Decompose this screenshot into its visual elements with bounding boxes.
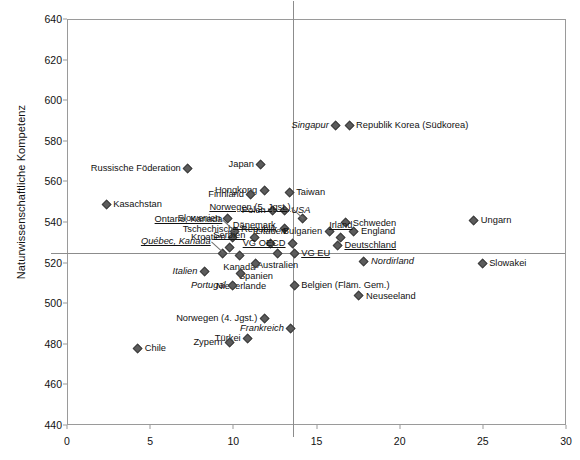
y-tick-mark xyxy=(63,140,67,141)
diamond-marker-icon xyxy=(331,120,341,130)
y-tick-mark xyxy=(63,262,67,263)
x-tick-label: 10 xyxy=(227,430,239,447)
data-point-label: Slowakei xyxy=(489,258,526,268)
plot-area: Russische FöderationJapanSingapurRepubli… xyxy=(67,19,566,425)
data-point-label: Ontario, Kanada xyxy=(155,214,223,224)
data-point-label: Republik Korea (Südkorea) xyxy=(356,120,468,130)
y-tick-mark xyxy=(63,303,67,304)
data-point-label: Nordirland xyxy=(371,256,414,266)
data-point-label: Irland xyxy=(329,220,352,230)
data-point-label: Serbien xyxy=(213,230,245,240)
y-tick-label: 600 xyxy=(0,94,68,106)
y-tick-mark xyxy=(63,100,67,101)
y-tick-label: 460 xyxy=(0,378,68,390)
scatter-chart: Naturwissenschaftliche Kompetenz Russisc… xyxy=(0,0,580,460)
data-point-label: Italien xyxy=(173,266,198,276)
y-tick-mark xyxy=(63,343,67,344)
diamond-marker-icon xyxy=(256,159,266,169)
x-tick-label: 30 xyxy=(560,430,572,447)
data-point-label: Norwegen (4. Jgst.) xyxy=(176,313,257,323)
diamond-marker-icon xyxy=(354,291,364,301)
x-tick-mark xyxy=(316,425,317,429)
diamond-marker-icon xyxy=(344,120,354,130)
x-tick-label: 25 xyxy=(477,430,489,447)
diamond-marker-icon xyxy=(183,163,193,173)
x-tick-label: 5 xyxy=(147,430,153,447)
diamond-marker-icon xyxy=(259,185,269,195)
data-point-label: Québec, Kanada xyxy=(141,236,211,246)
y-tick-label: 520 xyxy=(0,257,68,269)
data-point-label: Singapur xyxy=(292,120,329,130)
y-tick-mark xyxy=(63,59,67,60)
x-tick-mark xyxy=(399,425,400,429)
x-tick-mark xyxy=(150,425,151,429)
x-tick-mark xyxy=(233,425,234,429)
diamond-marker-icon xyxy=(101,200,111,210)
diamond-marker-icon xyxy=(272,248,282,258)
y-tick-label: 640 xyxy=(0,13,68,25)
data-point-label: Litauen xyxy=(256,226,287,236)
y-tick-label: 560 xyxy=(0,175,68,187)
diamond-marker-icon xyxy=(133,344,143,354)
y-tick-mark xyxy=(63,181,67,182)
diamond-marker-icon xyxy=(259,313,269,323)
data-point-label: Japan xyxy=(229,159,254,169)
diamond-marker-icon xyxy=(469,216,479,226)
x-tick-mark xyxy=(566,425,567,429)
data-point-label: Australien xyxy=(257,260,298,270)
y-tick-mark xyxy=(63,222,67,223)
data-point-label: Neuseeland xyxy=(366,291,416,301)
diamond-marker-icon xyxy=(234,250,244,260)
y-tick-mark xyxy=(63,384,67,385)
diamond-marker-icon xyxy=(289,248,299,258)
x-tick-mark xyxy=(482,425,483,429)
diamond-marker-icon xyxy=(289,281,299,291)
reference-line-vertical xyxy=(293,1,294,437)
data-point-label: Deutschland xyxy=(344,240,396,250)
y-tick-label: 580 xyxy=(0,135,68,147)
y-tick-label: 480 xyxy=(0,338,68,350)
x-tick-mark xyxy=(67,425,68,429)
data-point-label: Ungarn xyxy=(481,215,512,225)
diamond-marker-icon xyxy=(477,259,487,269)
data-point-label: Finnland xyxy=(208,189,244,199)
data-point-label: VG EU xyxy=(301,248,330,258)
diamond-marker-icon xyxy=(286,323,296,333)
diamond-marker-icon xyxy=(199,267,209,277)
y-tick-label: 500 xyxy=(0,297,68,309)
data-point-label: Belgien (Fläm. Gem.) xyxy=(301,280,389,290)
y-tick-label: 440 xyxy=(0,419,68,431)
data-point-label: Portugal xyxy=(191,280,226,290)
x-tick-label: 20 xyxy=(394,430,406,447)
y-tick-label: 620 xyxy=(0,54,68,66)
data-point-label: England xyxy=(361,226,395,236)
y-tick-mark xyxy=(63,19,67,20)
diamond-marker-icon xyxy=(359,256,369,266)
data-point-label: Chile xyxy=(145,343,166,353)
x-tick-label: 0 xyxy=(64,430,70,447)
data-point-label: Norwegen (5. Jgst.) xyxy=(209,202,290,212)
data-point-label: Russische Föderation xyxy=(91,163,181,173)
data-point-label: Zypern xyxy=(193,337,222,347)
y-tick-label: 540 xyxy=(0,216,68,228)
data-point-label: Kasachstan xyxy=(113,199,162,209)
data-point-label: Bulgarien xyxy=(283,226,322,236)
diamond-marker-icon xyxy=(243,334,253,344)
data-point-label: Taiwan xyxy=(296,187,325,197)
data-point-label: Frankreich xyxy=(240,323,284,333)
x-tick-label: 15 xyxy=(311,430,323,447)
diamond-marker-icon xyxy=(287,238,297,248)
data-point-label: VG OECD xyxy=(243,238,286,248)
